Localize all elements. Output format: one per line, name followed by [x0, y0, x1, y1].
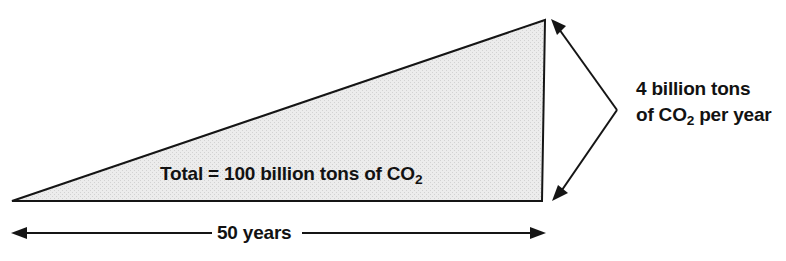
rate-arrow-lower-segment [562, 110, 617, 190]
span-dimension-label: 50 years [217, 222, 291, 244]
rate-label-line-2-subscript: 2 [687, 113, 694, 128]
rate-label-line-2: of CO2 per year [636, 102, 772, 134]
rate-arrow-lower-head [552, 185, 568, 201]
rate-arrow-upper-head [551, 19, 566, 35]
rate-label-line-1: 4 billion tons [636, 76, 772, 102]
interior-total-text: Total = 100 billion tons of CO [160, 163, 415, 184]
span-arrow-left-head [11, 227, 27, 239]
rate-label-line-2-suffix: per year [694, 104, 771, 125]
rate-dimension-label: 4 billion tons of CO2 per year [636, 76, 772, 134]
interior-total-subscript: 2 [415, 172, 422, 187]
span-arrow-right-head [530, 227, 546, 239]
rate-arrow-upper-segment [559, 29, 617, 110]
interior-total-label: Total = 100 billion tons of CO2 [160, 163, 422, 191]
emissions-wedge-diagram: Total = 100 billion tons of CO2 50 years… [0, 0, 786, 261]
rate-label-line-2-prefix: of CO [636, 104, 687, 125]
